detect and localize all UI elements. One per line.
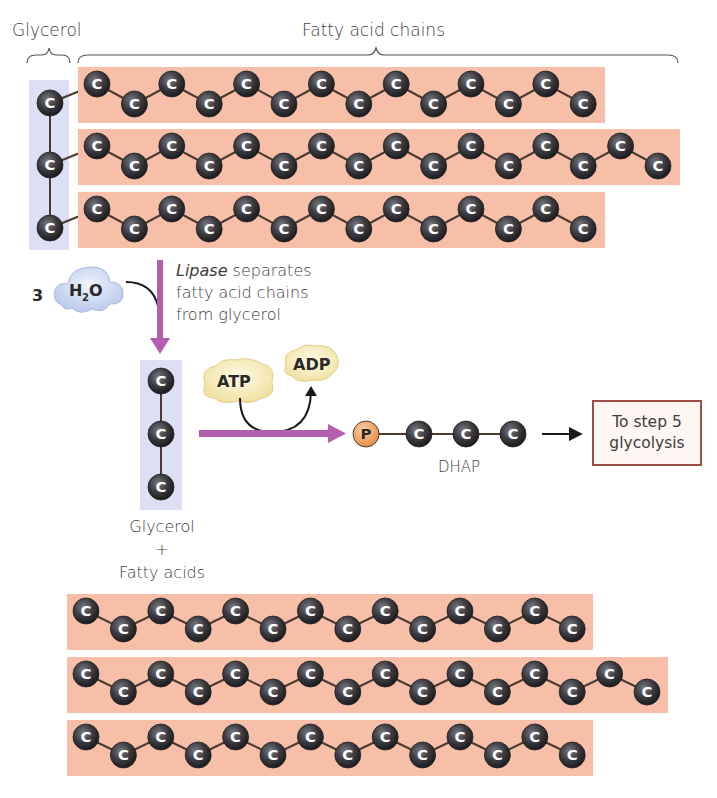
svg-text:C: C [241,200,252,218]
svg-text:C: C [316,200,327,218]
carbon-atom: C [383,71,409,97]
svg-text:C: C [230,665,241,683]
carbon-atom: C [223,724,249,750]
svg-text:H: H [69,281,82,300]
carbon-atom: C [308,71,334,97]
carbon-atom: C [410,742,436,768]
svg-text:C: C [380,728,391,746]
free-fatty-acid-chains: CCCCCCCCCCCCCCCCCCCCCCCCCCCCCCCCCCCCCCCC… [67,594,668,776]
lipase-arrow [150,260,170,354]
svg-text:C: C [455,602,466,620]
svg-text:C: C [503,95,514,113]
carbon-atom: C [148,421,174,447]
svg-text:C: C [166,200,177,218]
svg-text:C: C [92,137,103,155]
svg-text:C: C [391,75,402,93]
svg-text:C: C [305,728,316,746]
carbon-atom: C [37,152,63,178]
svg-text:C: C [279,157,290,175]
glycerol-brace [27,48,70,63]
svg-text:C: C [305,602,316,620]
carbon-atom: C [372,724,398,750]
svg-text:C: C [653,157,664,175]
carbon-atom: C [484,616,510,642]
svg-text:2: 2 [82,292,89,303]
carbon-atom: C [223,661,249,687]
carbon-atom: C [73,598,99,624]
carbon-atom: C [297,661,323,687]
svg-text:P: P [361,425,372,443]
carbon-atom: C [148,724,174,750]
phosphate-atom: P [353,421,379,447]
carbon-atom: C [522,724,548,750]
carbon-atom: C [346,91,372,117]
carbon-atom: C [484,742,510,768]
atp-label: ATP [217,372,251,391]
carbon-atom: C [308,133,334,159]
dhap-label: DHAP [438,458,480,476]
svg-text:C: C [279,220,290,238]
svg-text:C: C [615,137,626,155]
svg-text:C: C [428,220,439,238]
svg-text:C: C [92,75,103,93]
carbon-atom: C [372,598,398,624]
svg-text:C: C [578,95,589,113]
carbon-atom: C [196,91,222,117]
svg-text:C: C [380,665,391,683]
svg-text:C: C [391,200,402,218]
carbon-atom: C [559,616,585,642]
svg-text:C: C [604,665,615,683]
water-curved-arrow [126,282,158,306]
products-glycerol: Glycerol [112,515,212,538]
svg-text:C: C [155,665,166,683]
carbon-atom: C [484,679,510,705]
svg-text:C: C [204,220,215,238]
carbon-atom: C [559,742,585,768]
svg-text:C: C [279,95,290,113]
carbon-atom: C [335,742,361,768]
svg-text:C: C [492,683,503,701]
carbon-atom: C [84,196,110,222]
lipase-enzyme-name: Lipase [176,261,228,280]
carbon-atom: C [335,616,361,642]
carbon-atom: C [372,661,398,687]
carbon-atom: C [421,153,447,179]
carbon-atom: C [271,216,297,242]
svg-text:C: C [241,75,252,93]
carbon-atom: C [570,216,596,242]
svg-text:C: C [461,425,472,443]
carbon-atom: C [458,196,484,222]
carbon-atom: C [271,91,297,117]
kinase-arrow [199,424,346,443]
svg-text:C: C [417,683,428,701]
svg-text:C: C [92,200,103,218]
svg-text:C: C [503,220,514,238]
svg-text:C: C [428,95,439,113]
adp-label: ADP [293,355,330,374]
carbon-atom: C [495,216,521,242]
carbon-atom: C [533,71,559,97]
svg-text:C: C [342,620,353,638]
svg-text:C: C [45,94,56,112]
lipase-caption: Lipase separates fatty acid chains from … [176,260,336,326]
svg-text:C: C [166,137,177,155]
svg-text:C: C [204,95,215,113]
carbon-atom: C [447,724,473,750]
products-plus: + [112,538,212,561]
svg-text:C: C [529,602,540,620]
carbon-atom: C [234,196,260,222]
svg-text:C: C [428,157,439,175]
carbon-atom: C [522,661,548,687]
svg-text:C: C [503,157,514,175]
carbon-atom: C [645,153,671,179]
carbon-atom: C [185,679,211,705]
svg-text:C: C [316,75,327,93]
carbon-atom: C [346,153,372,179]
free-glycerol: CCC [148,368,174,500]
carbon-atom: C [159,196,185,222]
carbon-atom: C [383,196,409,222]
svg-text:C: C [540,200,551,218]
svg-text:C: C [353,95,364,113]
svg-text:C: C [241,137,252,155]
carbon-atom: C [533,133,559,159]
